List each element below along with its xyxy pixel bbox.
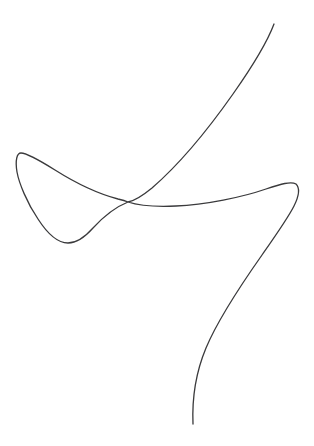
drawing-canvas [0, 0, 314, 446]
canvas-background [0, 0, 314, 446]
curve-figure [0, 0, 314, 446]
